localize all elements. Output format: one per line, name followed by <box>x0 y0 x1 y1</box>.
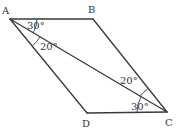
angle-label-a-20: 20° <box>40 41 58 52</box>
side-da <box>10 19 87 113</box>
angle-label-c-20: 20° <box>120 75 138 86</box>
angle-arc-c-20 <box>140 89 147 96</box>
vertex-label-a: A <box>1 5 10 16</box>
angle-label-a-30: 30° <box>27 20 45 31</box>
angle-arc-a-20 <box>32 37 40 46</box>
side-cd <box>87 112 167 113</box>
side-bc <box>93 19 167 112</box>
vertex-label-d: D <box>82 118 90 129</box>
parallelogram-diagram: A B C D 30° 20° 20° 30° <box>0 0 184 135</box>
vertex-label-c: C <box>165 117 173 128</box>
angle-label-c-30: 30° <box>131 101 149 112</box>
vertex-label-b: B <box>88 4 95 15</box>
